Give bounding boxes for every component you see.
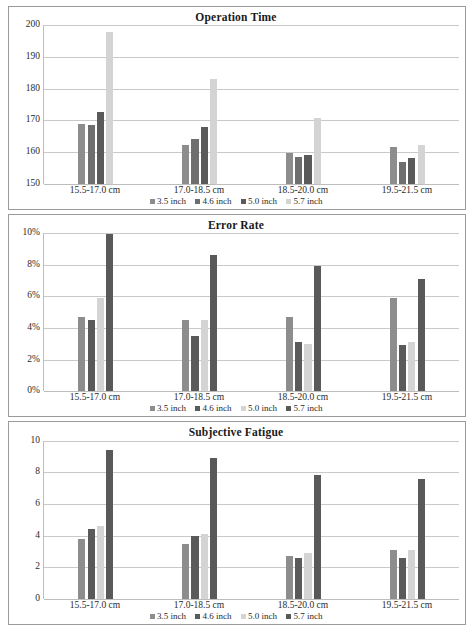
bar [210,458,217,599]
y-axis-tick-label: 2 [35,563,40,573]
bar [418,145,425,184]
x-axis-tick-label: 17.0-18.5 cm [147,185,251,197]
bar [78,124,85,184]
gridline [44,184,459,185]
y-axis-tick-label: 180 [26,84,40,94]
bar [390,147,397,183]
bar-group [355,25,459,184]
bar [182,145,189,184]
legend-item: 5.7 inch [286,404,323,413]
bar-groups [44,441,459,600]
bar [295,342,302,391]
legend-swatch-icon [286,406,291,411]
legend-label: 4.6 inch [203,612,232,621]
chart-panel-error-rate: Error Rate0%2%4%6%8%10%15.5-17.0 cm17.0-… [8,214,466,418]
legend-item: 5.0 inch [241,612,278,621]
y-axis-tick-label: 160 [26,147,40,157]
legend-item: 5.0 inch [241,404,278,413]
bar [182,544,189,600]
bar [295,157,302,184]
y-axis: 0246810 [13,441,43,600]
legend: 3.5 inch4.6 inch5.0 inch5.7 inch [13,612,459,622]
chart-panel-subjective-fatigue: Subjective Fatigue024681015.5-17.0 cm17.… [8,421,466,625]
chart-title: Operation Time [13,11,459,24]
y-axis-tick-label: 200 [26,20,40,30]
bar-group [252,25,356,184]
bar-groups [44,233,459,392]
legend-label: 5.7 inch [294,404,323,413]
bar [286,317,293,392]
legend-item: 5.7 inch [286,612,323,621]
y-axis-tick-label: 0% [27,387,40,397]
y-axis-tick-label: 10% [23,228,40,238]
legend-label: 5.0 inch [248,404,277,413]
x-axis-tick-label: 19.5-21.5 cm [355,600,459,612]
y-axis-tick-label: 190 [26,52,40,62]
bar-group [148,441,252,600]
bar [304,155,311,184]
bar [97,112,104,184]
legend-item: 4.6 inch [195,404,232,413]
y-axis: 0%2%4%6%8%10% [13,233,43,392]
x-axis: 15.5-17.0 cm17.0-18.5 cm18.5-20.0 cm19.5… [43,185,459,197]
bar [191,536,198,599]
bar [106,234,113,391]
bar-group [252,441,356,600]
bar [78,317,85,392]
legend-label: 3.5 inch [157,197,186,206]
chart-panel-operation-time: Operation Time15016017018019020015.5-17.… [8,6,466,210]
legend-item: 4.6 inch [195,197,232,206]
bar [210,255,217,391]
bar [295,558,302,599]
legend-label: 3.5 inch [157,404,186,413]
bar [304,553,311,599]
bar-group [148,25,252,184]
legend-label: 4.6 inch [203,197,232,206]
bar [182,320,189,391]
y-axis-tick-label: 150 [26,179,40,189]
bar-group [44,25,148,184]
legend-item: 3.5 inch [150,612,187,621]
legend-swatch-icon [195,614,200,619]
x-axis-tick-label: 15.5-17.0 cm [43,185,147,197]
bar [191,139,198,184]
plot-area: 0%2%4%6%8%10% [13,233,459,392]
bar [399,345,406,391]
y-axis-tick-label: 2% [27,355,40,365]
bar [88,320,95,391]
legend-swatch-icon [150,199,155,204]
bar-group [44,441,148,600]
bar [314,118,321,183]
bar-group [252,233,356,392]
legend-label: 5.0 inch [248,197,277,206]
legend-label: 5.7 inch [294,612,323,621]
bar [418,479,425,600]
y-axis-tick-label: 8% [27,260,40,270]
bar [286,556,293,599]
bar-group [355,233,459,392]
bar [399,558,406,599]
legend-swatch-icon [286,614,291,619]
x-axis-tick-label: 15.5-17.0 cm [43,392,147,404]
bar [97,298,104,392]
chart-title: Subjective Fatigue [13,426,459,439]
bar [201,127,208,184]
bar [408,550,415,599]
y-axis-tick-label: 8 [35,468,40,478]
bar [286,153,293,184]
y-axis-tick-label: 170 [26,116,40,126]
plot-area: 150160170180190200 [13,25,459,184]
bar [210,79,217,184]
chart-title: Error Rate [13,219,459,232]
legend-swatch-icon [241,614,246,619]
legend-swatch-icon [286,199,291,204]
bar [106,32,113,184]
legend-item: 3.5 inch [150,197,187,206]
bar [78,539,85,599]
y-axis-tick-label: 6 [35,499,40,509]
bar [97,526,104,599]
bar-groups [44,25,459,184]
y-axis-tick-label: 4% [27,323,40,333]
bar [88,529,95,599]
x-axis-tick-label: 19.5-21.5 cm [355,185,459,197]
